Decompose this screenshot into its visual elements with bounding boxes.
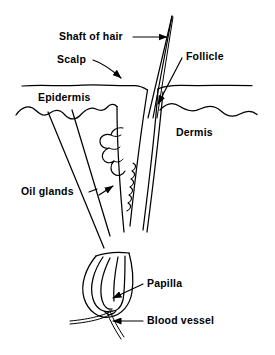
oil-glands-cluster (100, 128, 125, 176)
label-epidermis: Epidermis (38, 92, 91, 103)
leader-scalp (93, 60, 121, 78)
label-oil-glands: Oil glands (21, 186, 74, 197)
scalp-surface-line (22, 85, 252, 90)
hair-bulb (83, 252, 133, 317)
leader-oil-glands (99, 186, 113, 195)
label-blood-vessel: Blood vessel (147, 315, 214, 326)
hair-follicle-diagram: Shaft of hair Scalp Follicle Epidermis D… (0, 0, 275, 355)
leader-papilla (113, 284, 143, 298)
label-shaft-of-hair: Shaft of hair (59, 31, 123, 42)
leader-follicle (158, 58, 182, 104)
hair-shaft (148, 16, 173, 118)
label-papilla: Papilla (147, 278, 182, 289)
follicle-outer-sheath (48, 107, 124, 249)
epidermis-dermis-boundary (16, 104, 257, 119)
diagram-canvas (0, 0, 275, 355)
label-scalp: Scalp (57, 54, 86, 65)
label-follicle: Follicle (186, 51, 224, 62)
label-dermis: Dermis (176, 127, 213, 138)
